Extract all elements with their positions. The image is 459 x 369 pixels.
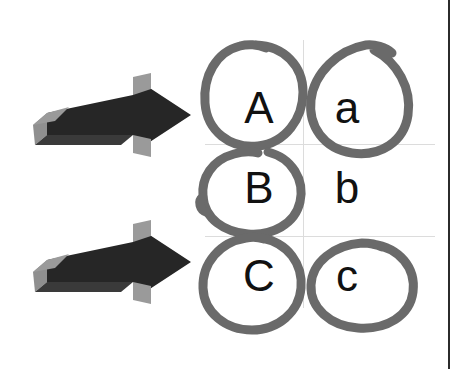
diagram-canvas: A a B b C c <box>0 0 459 369</box>
circle-around-B-tail <box>200 197 206 212</box>
letter-cell-c: c <box>303 240 391 312</box>
grid-line-horizontal-lower <box>205 236 435 237</box>
letter-glyph-c: c <box>336 254 358 298</box>
right-arrow-bottom <box>33 220 193 304</box>
letter-glyph-b: b <box>335 166 359 210</box>
frame-border-right <box>448 0 450 369</box>
letter-glyph-a: a <box>335 86 359 130</box>
right-arrow-top <box>33 73 193 157</box>
letter-cell-b: b <box>303 148 391 228</box>
letter-glyph-A: A <box>244 86 273 130</box>
letter-glyph-B: B <box>244 166 273 210</box>
letter-cell-a: a <box>303 72 391 144</box>
grid-line-horizontal-upper <box>205 144 435 145</box>
letter-cell-C: C <box>215 240 303 312</box>
letter-cell-A: A <box>215 72 303 144</box>
letter-glyph-C: C <box>243 254 275 298</box>
letter-cell-B: B <box>215 148 303 228</box>
